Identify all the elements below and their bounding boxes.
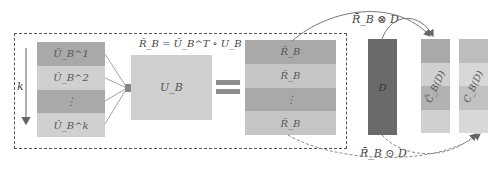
junction-node-icon bbox=[125, 84, 131, 92]
bottom-arrow-from-r bbox=[288, 134, 480, 157]
top-arrow-from-r bbox=[292, 12, 430, 41]
fan-in-lines bbox=[105, 54, 127, 124]
top-arrow-from-d bbox=[382, 18, 433, 39]
connector-overlay bbox=[0, 0, 503, 178]
bottom-arrow-from-d bbox=[382, 134, 476, 154]
